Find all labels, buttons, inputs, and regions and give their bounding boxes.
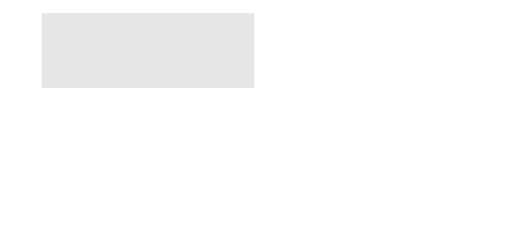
counter-circuit (0, 0, 518, 240)
